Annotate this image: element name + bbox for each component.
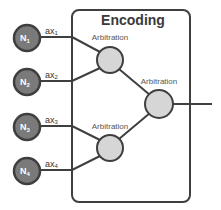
edge-label-ax3: ax3 [45, 115, 59, 125]
arbitration-label-bottom: Arbitration [92, 122, 128, 131]
input-node-n4: N4 [14, 158, 40, 184]
arbitration-node-final [145, 90, 173, 118]
arbitration-label-top: Arbitration [92, 33, 128, 42]
encoding-diagram: Encoding Arbitration Arbitration Arbitra… [0, 0, 221, 210]
edge-label-ax4: ax4 [45, 159, 59, 169]
arbitration-node-top [97, 47, 123, 73]
arbitration-node-bottom [97, 135, 123, 161]
arbitration-label-final: Arbitration [141, 77, 177, 86]
encoding-title: Encoding [101, 12, 165, 28]
input-node-n1: N1 [14, 25, 40, 51]
input-node-n2: N2 [14, 69, 40, 95]
input-node-n3: N3 [14, 114, 40, 140]
edge-label-ax1: ax1 [45, 26, 59, 36]
edge-label-ax2: ax2 [45, 70, 59, 80]
